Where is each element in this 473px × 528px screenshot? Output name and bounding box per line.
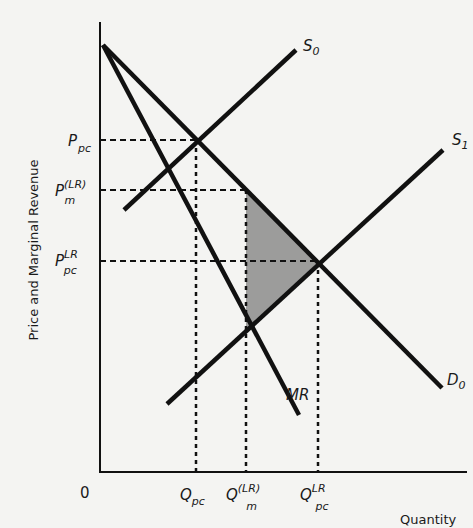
y-axis-title: Price and Marginal Revenue [26,159,41,340]
label-p-pc: Ppc [68,132,91,155]
label-q-lr-m: Q(LR)m [226,482,260,513]
label-d0: D0 [447,371,466,392]
demand-curve-d0 [103,45,442,388]
label-s0: S0 [303,37,320,58]
label-p-lr-m: P(LR)m [55,178,86,207]
label-s1: S1 [452,131,469,152]
supply-curve-s1 [167,150,443,404]
label-q-pc: Qpc [180,486,205,508]
economics-diagram: S0 S1 D0 MR Ppc P(LR)m PLRpc 0 Qpc Q(LR)… [0,0,473,528]
label-p-lr-pc: PLRpc [55,248,78,277]
label-q-lr-pc: QLRpc [300,482,329,513]
label-mr: MR [286,386,309,404]
x-axis-title: Quantity [400,512,456,527]
label-origin: 0 [80,484,90,502]
